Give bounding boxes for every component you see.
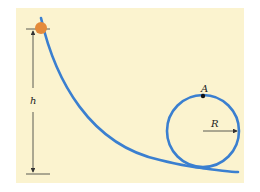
point-a-label: A: [200, 83, 208, 94]
loop-track-diagram: h A R: [0, 0, 260, 192]
height-dimension: h: [26, 29, 50, 174]
point-a-marker: [201, 94, 205, 98]
ball: [35, 22, 47, 34]
radius-label: R: [210, 118, 219, 129]
height-label: h: [30, 95, 36, 106]
track-exit: [195, 167, 238, 172]
track-incline: [41, 18, 208, 168]
